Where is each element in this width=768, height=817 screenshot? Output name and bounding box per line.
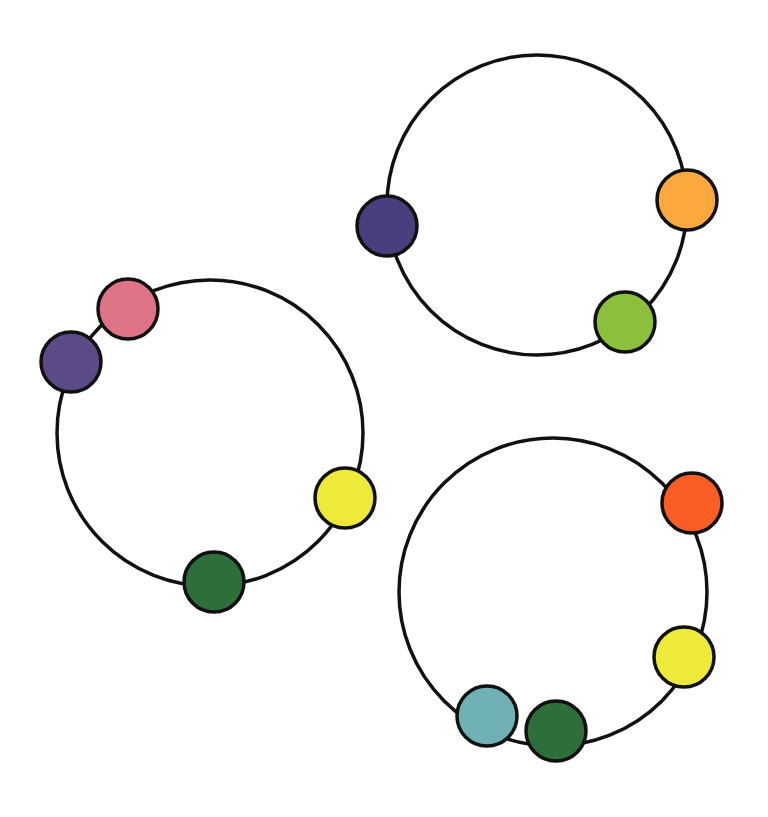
bead-navy [357,196,417,256]
bead-orange-red [662,473,722,533]
bead-pink [98,279,158,339]
bead-purple [41,332,101,392]
bead-teal [457,686,517,746]
ring-bottom-right [399,438,722,761]
bead-rings-diagram [0,0,768,817]
ring-top-right [357,55,717,355]
bead-dark-green [526,701,586,761]
ring-left [41,279,375,612]
bead-yellow [315,468,375,528]
bead-dark-green [184,552,244,612]
bead-orange [657,170,717,230]
bead-lime-green [595,292,655,352]
bead-yellow [654,627,714,687]
